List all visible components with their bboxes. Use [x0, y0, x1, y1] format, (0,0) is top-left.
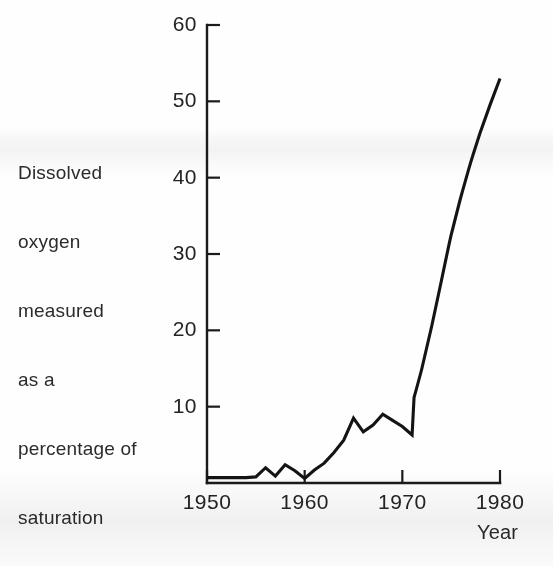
chart-figure: Dissolved oxygen measured as a percentag… [0, 0, 553, 566]
axes-group [207, 25, 500, 483]
y-tick-marks [207, 25, 220, 407]
data-series-line [207, 78, 500, 478]
plot-area [0, 0, 553, 566]
